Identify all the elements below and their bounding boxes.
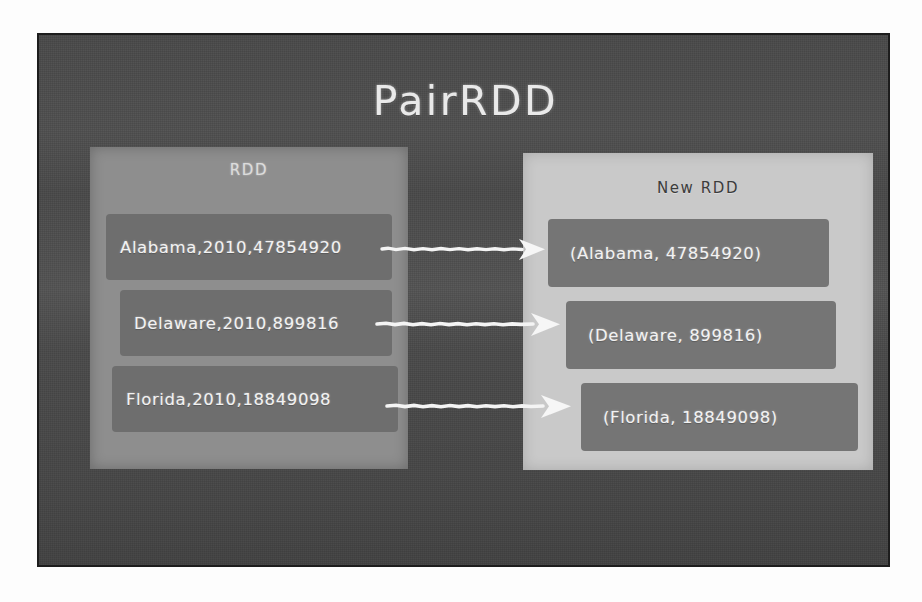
source-record-row: Florida,2010,18849098 [112, 366, 398, 432]
target-record-row: (Florida, 18849098) [581, 383, 858, 451]
target-record-row: (Alabama, 47854920) [548, 219, 829, 287]
page-title: PairRDD [39, 77, 890, 125]
source-record-text: Delaware,2010,899816 [134, 314, 339, 333]
target-rdd-panel: New RDD (Alabama, 47854920) (Delaware, 8… [523, 153, 873, 470]
target-record-text: (Florida, 18849098) [603, 408, 778, 427]
arrow-delaware-label: maps Delaware record to pair [39, 35, 40, 36]
arrow-alabama-label: maps Alabama record to pair [39, 35, 40, 36]
target-record-text: (Delaware, 899816) [588, 326, 763, 345]
source-record-text: Florida,2010,18849098 [126, 390, 331, 409]
source-rdd-panel: RDD Alabama,2010,47854920 Delaware,2010,… [90, 147, 408, 469]
source-record-row: Delaware,2010,899816 [120, 290, 392, 356]
source-record-text: Alabama,2010,47854920 [120, 238, 342, 257]
slide: PairRDD RDD Alabama,2010,47854920 Delawa… [37, 33, 890, 567]
source-rdd-panel-title: RDD [90, 161, 408, 179]
page-canvas: PairRDD RDD Alabama,2010,47854920 Delawa… [0, 0, 922, 602]
source-record-row: Alabama,2010,47854920 [106, 214, 392, 280]
target-record-text: (Alabama, 47854920) [570, 244, 762, 263]
target-record-row: (Delaware, 899816) [566, 301, 836, 369]
arrow-florida-label: maps Florida record to pair [39, 35, 40, 36]
target-rdd-panel-title: New RDD [523, 179, 873, 197]
